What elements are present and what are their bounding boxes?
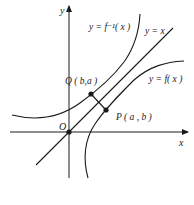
identity-line	[36, 28, 173, 165]
function-inverse-diagram: y x O y = f⁻¹( x ) y = x y = f( x ) Q ( …	[0, 0, 194, 205]
identity-line-label: y = x	[144, 26, 165, 36]
point-p-label: P ( a , b )	[115, 112, 152, 123]
origin-label: O	[59, 121, 66, 132]
point-q	[88, 91, 93, 96]
inverse-function-label: y = f⁻¹( x )	[88, 22, 130, 33]
function-label: y = f( x )	[148, 74, 182, 85]
x-axis-label: x	[178, 137, 184, 148]
point-q-label: Q ( b,a )	[65, 76, 97, 87]
point-p	[103, 107, 108, 112]
y-axis-label: y	[59, 5, 65, 16]
origin-point	[66, 129, 71, 134]
